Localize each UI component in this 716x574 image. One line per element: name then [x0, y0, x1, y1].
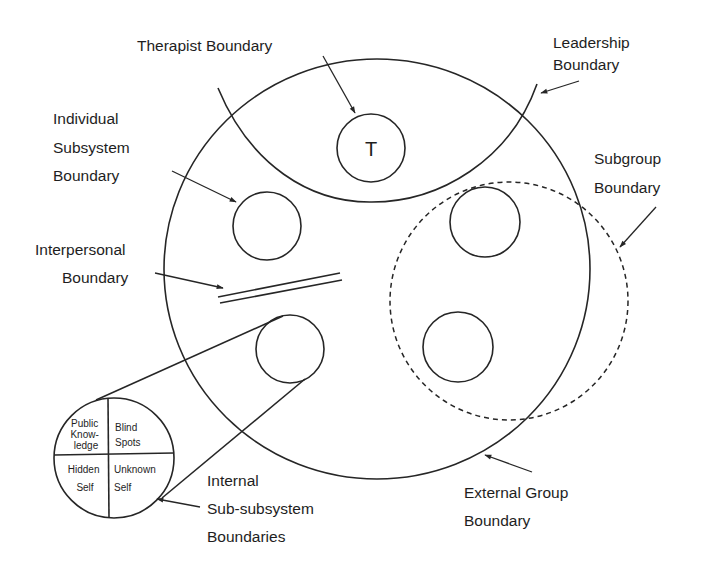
arrow-therapist-boundary	[323, 56, 355, 113]
johari-vertical-divider	[108, 398, 109, 518]
member-circle-upper-left	[233, 192, 301, 260]
interpersonal-boundary-line-1	[218, 273, 340, 297]
group-boundaries-diagram: T Public Know- ledge Blind Spots Hidden …	[0, 0, 716, 574]
arrow-subgroup-boundary	[620, 207, 656, 247]
subgroup-boundary-circle	[390, 182, 628, 420]
johari-window-circle	[54, 398, 174, 518]
zoom-tangent-upper	[96, 316, 283, 400]
arrow-external-group-boundary	[485, 455, 532, 472]
therapist-symbol: T	[365, 138, 377, 160]
label-leadership-boundary: Leadership Boundary	[553, 34, 634, 73]
label-internal-sub-subsystem-boundaries: Internal Sub-subsystem Boundaries	[207, 472, 318, 545]
label-therapist-boundary: Therapist Boundary	[137, 37, 273, 54]
member-circle-lower-right	[423, 312, 493, 382]
label-subgroup-boundary: Subgroup Boundary	[594, 150, 666, 196]
arrow-internal-sub-subsystem-boundaries	[157, 499, 200, 507]
johari-window: Public Know- ledge Blind Spots Hidden Se…	[54, 398, 174, 518]
member-circle-lower-left	[256, 315, 324, 383]
label-interpersonal-boundary: Interpersonal Boundary	[35, 241, 130, 286]
member-circle-upper-right	[450, 187, 520, 257]
external-group-boundary-circle	[164, 59, 590, 479]
label-external-group-boundary: External Group Boundary	[464, 484, 573, 529]
interpersonal-boundary-line-2	[220, 280, 342, 303]
johari-public-knowledge: Public Know- ledge	[70, 418, 101, 451]
label-individual-subsystem-boundary: Individual Subsystem Boundary	[53, 110, 134, 184]
arrow-leadership-boundary	[541, 81, 579, 93]
